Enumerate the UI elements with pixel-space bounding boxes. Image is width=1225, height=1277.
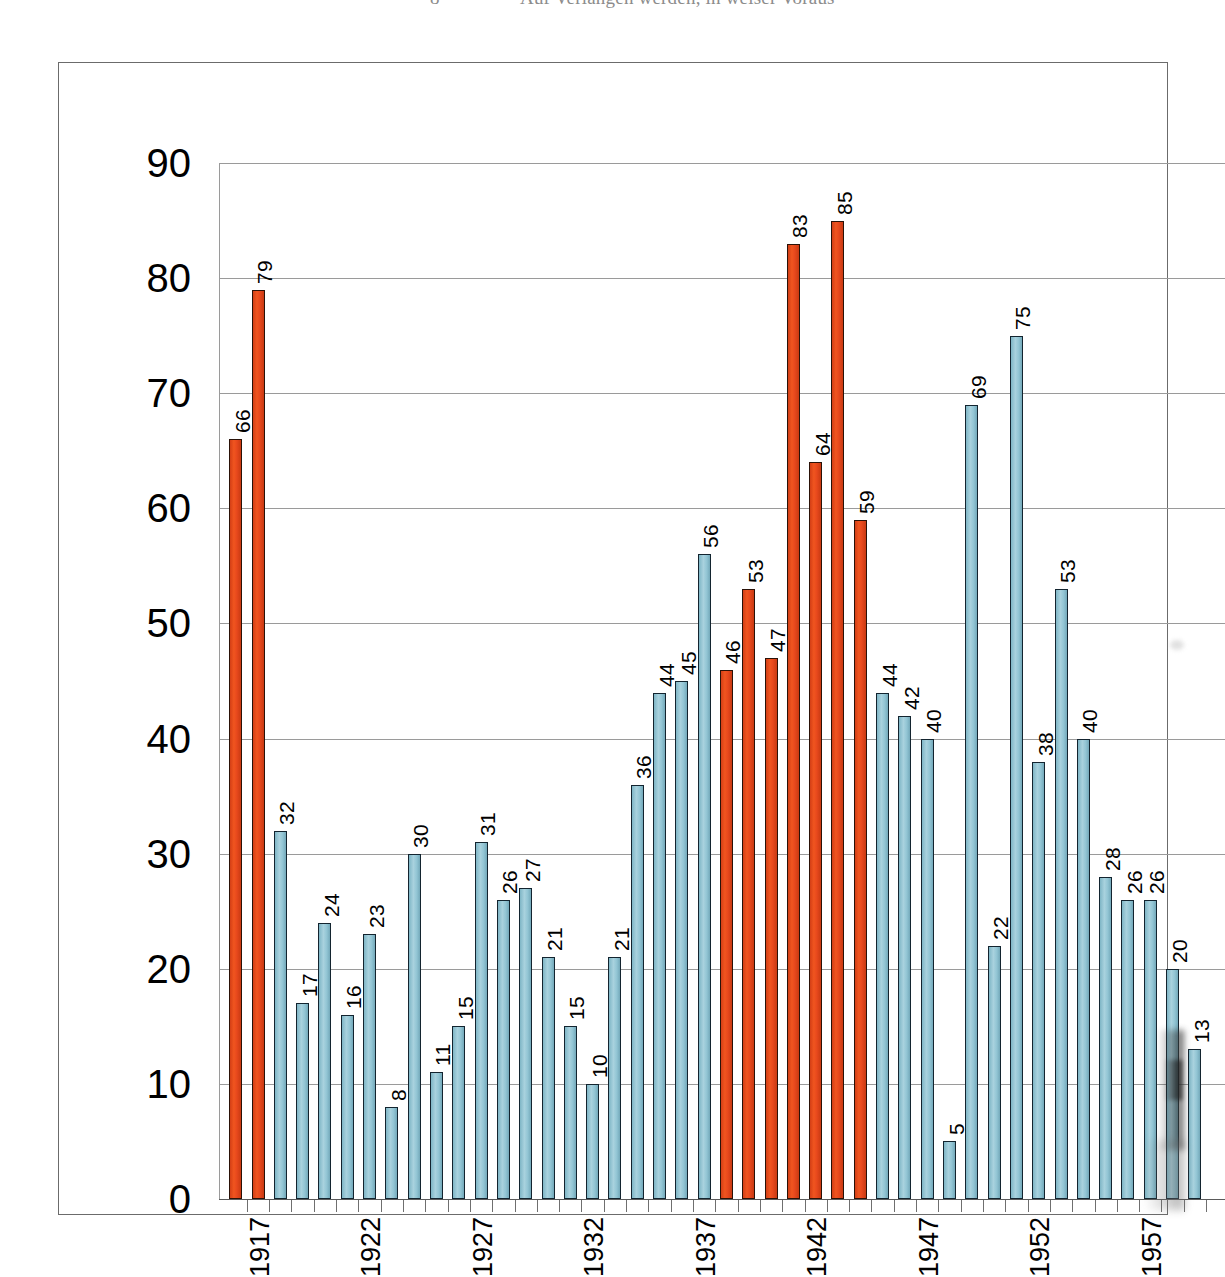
x-tick bbox=[358, 1200, 359, 1212]
bar[interactable] bbox=[1077, 739, 1090, 1199]
x-tick bbox=[403, 1200, 404, 1212]
bar[interactable] bbox=[475, 842, 488, 1199]
bar-value-label: 42 bbox=[900, 686, 924, 710]
x-tick bbox=[381, 1200, 382, 1212]
bar-value-label: 32 bbox=[275, 801, 299, 825]
bar-value-label: 53 bbox=[1056, 559, 1080, 583]
x-tick bbox=[871, 1200, 872, 1212]
y-tick-label: 40 bbox=[147, 716, 192, 761]
plot-area: 0102030405060708090 66793217241623830111… bbox=[219, 163, 1225, 1199]
bar[interactable] bbox=[653, 693, 666, 1199]
x-tick bbox=[470, 1200, 471, 1212]
x-tick bbox=[269, 1200, 270, 1212]
x-tick bbox=[983, 1200, 984, 1212]
bar[interactable] bbox=[1188, 1049, 1201, 1199]
bar-value-label: 24 bbox=[320, 893, 344, 917]
bar[interactable] bbox=[363, 934, 376, 1199]
gridline bbox=[219, 508, 1225, 509]
bar[interactable] bbox=[252, 290, 265, 1199]
bar[interactable] bbox=[921, 739, 934, 1199]
bar[interactable] bbox=[876, 693, 889, 1199]
bar[interactable] bbox=[296, 1003, 309, 1199]
bar[interactable] bbox=[854, 520, 867, 1199]
x-tick bbox=[760, 1200, 761, 1212]
x-tick bbox=[1050, 1200, 1051, 1212]
scan-artifact bbox=[1144, 1140, 1184, 1210]
bar[interactable] bbox=[675, 681, 688, 1199]
gridline bbox=[219, 623, 1225, 624]
bar[interactable] bbox=[1099, 877, 1112, 1199]
x-tick bbox=[1005, 1200, 1006, 1212]
x-tick-label: 1957 bbox=[1137, 1217, 1168, 1277]
bar[interactable] bbox=[229, 439, 242, 1199]
bar[interactable] bbox=[809, 462, 822, 1199]
bar-value-label: 13 bbox=[1190, 1019, 1214, 1043]
y-tick-label: 60 bbox=[147, 486, 192, 531]
bar-value-label: 53 bbox=[744, 559, 768, 583]
x-tick-label: 1942 bbox=[802, 1217, 833, 1277]
x-tick bbox=[805, 1200, 806, 1212]
bar[interactable] bbox=[765, 658, 778, 1199]
bar-value-label: 69 bbox=[967, 375, 991, 399]
gridline bbox=[219, 163, 1225, 164]
running-title: Auf Verlangen werden, in weiser Voraus bbox=[520, 0, 835, 9]
bar[interactable] bbox=[542, 957, 555, 1199]
bar[interactable] bbox=[787, 244, 800, 1199]
x-tick bbox=[827, 1200, 828, 1212]
bar[interactable] bbox=[385, 1107, 398, 1199]
x-tick bbox=[581, 1200, 582, 1212]
bar[interactable] bbox=[586, 1084, 599, 1199]
x-tick bbox=[559, 1200, 560, 1212]
bar-value-label: 59 bbox=[855, 490, 879, 514]
bar[interactable] bbox=[1121, 900, 1134, 1199]
x-tick bbox=[961, 1200, 962, 1212]
bar[interactable] bbox=[318, 923, 331, 1199]
bar[interactable] bbox=[698, 554, 711, 1199]
bar[interactable] bbox=[1055, 589, 1068, 1199]
bar[interactable] bbox=[898, 716, 911, 1199]
bar[interactable] bbox=[831, 221, 844, 1199]
bar[interactable] bbox=[274, 831, 287, 1199]
x-tick-label: 1917 bbox=[245, 1217, 276, 1277]
y-tick-label: 10 bbox=[147, 1061, 192, 1106]
x-tick bbox=[916, 1200, 917, 1212]
gridline bbox=[219, 393, 1225, 394]
x-tick bbox=[604, 1200, 605, 1212]
bar[interactable] bbox=[1010, 336, 1023, 1199]
bar[interactable] bbox=[564, 1026, 577, 1199]
x-tick bbox=[515, 1200, 516, 1212]
y-axis-line bbox=[219, 163, 220, 1199]
bar[interactable] bbox=[965, 405, 978, 1199]
x-tick-label: 1922 bbox=[356, 1217, 387, 1277]
x-tick bbox=[314, 1200, 315, 1212]
bar-value-label: 27 bbox=[521, 858, 545, 882]
bar[interactable] bbox=[497, 900, 510, 1199]
bar[interactable] bbox=[742, 589, 755, 1199]
x-tick bbox=[1072, 1200, 1073, 1212]
bar[interactable] bbox=[452, 1026, 465, 1199]
bar[interactable] bbox=[608, 957, 621, 1199]
scan-artifact bbox=[1170, 640, 1184, 650]
x-tick bbox=[1206, 1200, 1207, 1212]
bar-value-label: 26 bbox=[1123, 870, 1147, 894]
bar[interactable] bbox=[631, 785, 644, 1199]
bar[interactable] bbox=[519, 888, 532, 1199]
x-tick bbox=[537, 1200, 538, 1212]
page-number: 8 bbox=[430, 0, 440, 9]
bar[interactable] bbox=[943, 1141, 956, 1199]
chart-frame: 0102030405060708090 66793217241623830111… bbox=[58, 62, 1168, 1215]
y-tick-label: 30 bbox=[147, 831, 192, 876]
x-tick-label: 1937 bbox=[691, 1217, 722, 1277]
bar[interactable] bbox=[430, 1072, 443, 1199]
y-tick-label: 90 bbox=[147, 141, 192, 186]
x-tick bbox=[648, 1200, 649, 1212]
bar[interactable] bbox=[1032, 762, 1045, 1199]
x-tick-label: 1952 bbox=[1025, 1217, 1056, 1277]
bar[interactable] bbox=[341, 1015, 354, 1199]
bar[interactable] bbox=[720, 670, 733, 1200]
y-tick-label: 80 bbox=[147, 256, 192, 301]
x-tick bbox=[1117, 1200, 1118, 1212]
bar[interactable] bbox=[408, 854, 421, 1199]
x-tick bbox=[894, 1200, 895, 1212]
bar[interactable] bbox=[988, 946, 1001, 1199]
